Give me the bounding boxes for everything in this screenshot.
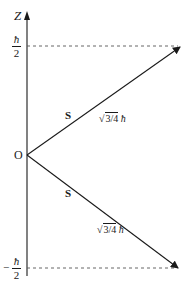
sqrt-icon: √ <box>99 113 105 124</box>
origin-label: O <box>14 149 23 161</box>
spin-down-vector-label: S <box>65 188 71 199</box>
lower-level-numerator: ħ <box>13 256 21 267</box>
spin-down-vector <box>27 155 178 268</box>
magnitude-radicand: 3/4 <box>103 223 117 235</box>
magnitude-unit: ħ <box>119 224 124 235</box>
spin-up-vector <box>27 47 180 155</box>
lower-level-label: ħ 2 <box>12 256 21 281</box>
z-axis-label: Z <box>14 9 21 22</box>
spin-vector-diagram <box>0 0 190 287</box>
spin-up-vector-label: S <box>65 110 71 121</box>
spin-down-magnitude-label: √3/4 ħ <box>97 225 124 235</box>
magnitude-radicand: 3/4 <box>105 112 119 124</box>
magnitude-unit: ħ <box>121 113 126 124</box>
sqrt-icon: √ <box>97 224 103 235</box>
spin-up-magnitude-label: √3/4 ħ <box>99 114 126 124</box>
upper-level-numerator: ħ <box>13 34 21 45</box>
lower-level-denominator: 2 <box>14 270 20 281</box>
z-axis-arrow-icon <box>24 11 30 20</box>
lower-level-sign: − <box>3 262 9 273</box>
upper-level-label: ħ 2 <box>12 34 21 59</box>
upper-level-denominator: 2 <box>14 48 20 59</box>
